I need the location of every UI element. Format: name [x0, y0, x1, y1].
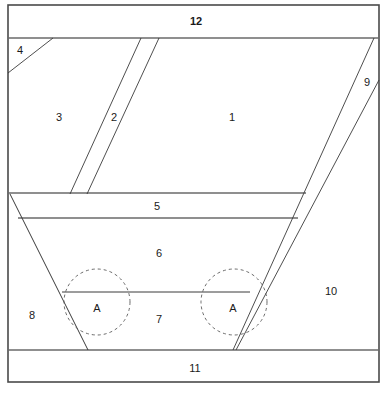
region-label-10: 10 — [325, 285, 337, 297]
region-label-a-right: A — [229, 302, 237, 314]
diagram-root: 12 4 3 2 1 9 5 6 10 A 8 7 A 11 — [0, 0, 387, 396]
region-label-9: 9 — [364, 76, 370, 88]
geometric-diagram: 12 4 3 2 1 9 5 6 10 A 8 7 A 11 — [0, 0, 387, 396]
region-label-1: 1 — [229, 111, 235, 123]
region-label-4: 4 — [17, 44, 23, 56]
region-label-3: 3 — [56, 111, 62, 123]
region-label-12: 12 — [190, 15, 202, 27]
region-label-5: 5 — [154, 200, 160, 212]
diagram-background — [0, 0, 387, 396]
region-label-7: 7 — [156, 313, 162, 325]
region-label-a-left: A — [93, 302, 101, 314]
region-label-6: 6 — [156, 247, 162, 259]
region-label-8: 8 — [29, 309, 35, 321]
region-label-2: 2 — [111, 111, 117, 123]
region-label-11: 11 — [189, 362, 200, 374]
